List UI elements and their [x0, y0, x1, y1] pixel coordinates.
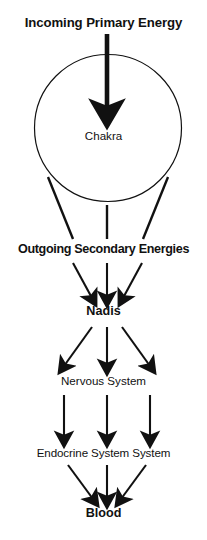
arrow-nadis-to-nervous-right: [122, 327, 150, 366]
node-label-incoming-primary-energy: Incoming Primary Energy: [0, 16, 207, 29]
node-label-chakra: Chakra: [0, 130, 207, 142]
node-label-endocrine-system: Endocrine System System: [0, 447, 207, 459]
node-label-nervous-system: Nervous System: [0, 375, 207, 387]
arrow-outgoing-to-nadis-right: [123, 263, 142, 298]
outgoing-line-left: [48, 177, 73, 239]
diagram-canvas: [0, 0, 207, 540]
chakra-energy-flow-diagram: Incoming Primary Energy Chakra Outgoing …: [0, 0, 207, 540]
arrow-endocrine-to-blood-right: [121, 465, 146, 499]
node-label-blood: Blood: [0, 507, 207, 520]
node-label-outgoing-secondary-energies: Outgoing Secondary Energies: [0, 243, 207, 256]
arrow-endocrine-to-blood-left: [68, 465, 93, 499]
outgoing-line-right: [143, 177, 168, 239]
arrow-nadis-to-nervous-left: [64, 327, 92, 366]
node-label-nadis: Nadis: [0, 305, 207, 318]
arrow-outgoing-to-nadis-left: [73, 263, 92, 298]
